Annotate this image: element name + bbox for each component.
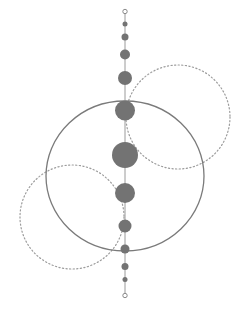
chain-node xyxy=(115,101,135,121)
dotted-ring-lower-left xyxy=(20,165,124,269)
chain-node xyxy=(115,183,135,203)
chain-node xyxy=(122,263,129,270)
chain-node xyxy=(118,71,132,85)
chain-node xyxy=(112,142,138,168)
chain-node xyxy=(123,277,128,282)
chain-node xyxy=(120,50,130,60)
chain-node xyxy=(121,245,130,254)
chain-node xyxy=(122,34,129,41)
chain-node xyxy=(119,220,132,233)
orbital-diagram xyxy=(0,0,251,320)
top-endpoint-circle xyxy=(123,9,127,13)
bottom-endpoint-circle xyxy=(123,293,127,297)
dotted-ring-upper-right xyxy=(126,65,230,169)
chain-node xyxy=(123,22,128,27)
